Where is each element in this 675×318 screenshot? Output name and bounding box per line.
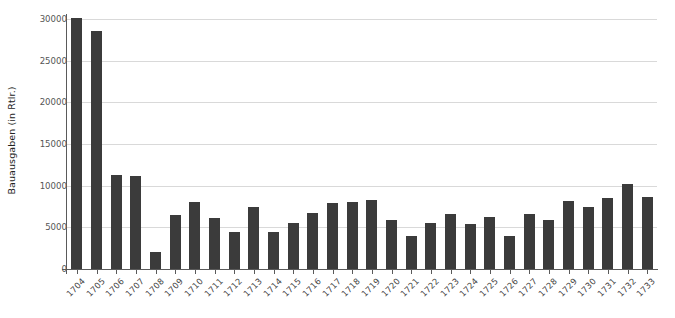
x-tick-label: 1716 — [300, 276, 323, 299]
x-tick-mark — [97, 270, 98, 274]
x-tick-mark — [431, 270, 432, 274]
bar[interactable] — [71, 18, 82, 269]
bar[interactable] — [602, 198, 613, 269]
plot-area — [67, 19, 657, 269]
bar[interactable] — [465, 224, 476, 269]
x-tick-label: 1705 — [84, 276, 107, 299]
x-tick-label: 1714 — [261, 276, 284, 299]
x-tick-mark — [392, 270, 393, 274]
x-tick-label: 1729 — [556, 276, 579, 299]
x-tick-mark — [569, 270, 570, 274]
x-tick-label: 1721 — [399, 276, 422, 299]
x-tick-label: 1709 — [163, 276, 186, 299]
bar[interactable] — [386, 220, 397, 269]
bar[interactable] — [366, 200, 377, 269]
y-axis-title-text: Bauausgaben (in Rtlr.) — [6, 86, 17, 194]
bar[interactable] — [111, 175, 122, 269]
bar[interactable] — [524, 214, 535, 269]
x-tick-label: 1712 — [222, 276, 245, 299]
x-tick-mark — [293, 270, 294, 274]
y-tick-label: 0 — [25, 264, 67, 274]
bar[interactable] — [622, 184, 633, 269]
x-tick-label: 1724 — [458, 276, 481, 299]
x-tick-label: 1730 — [576, 276, 599, 299]
bar[interactable] — [425, 223, 436, 269]
x-tick-mark — [215, 270, 216, 274]
x-tick-label: 1725 — [477, 276, 500, 299]
x-tick-mark — [77, 270, 78, 274]
bar[interactable] — [307, 213, 318, 269]
x-tick-label: 1733 — [635, 276, 658, 299]
x-tick-label: 1708 — [143, 276, 166, 299]
x-tick-mark — [588, 270, 589, 274]
bar[interactable] — [445, 214, 456, 269]
x-tick-mark — [451, 270, 452, 274]
x-tick-label: 1711 — [202, 276, 225, 299]
y-tick-label: 25000 — [25, 56, 67, 66]
bar[interactable] — [189, 202, 200, 269]
bar[interactable] — [229, 232, 240, 270]
x-tick-mark — [490, 270, 491, 274]
x-tick-mark — [647, 270, 648, 274]
x-tick-label: 1732 — [615, 276, 638, 299]
bar[interactable] — [288, 223, 299, 269]
bar[interactable] — [484, 217, 495, 269]
x-tick-label: 1704 — [64, 276, 87, 299]
bar[interactable] — [268, 232, 279, 270]
bar[interactable] — [327, 203, 338, 269]
y-tick-label: 20000 — [25, 97, 67, 107]
y-tick-label: 30000 — [25, 14, 67, 24]
x-tick-mark — [470, 270, 471, 274]
x-tick-mark — [608, 270, 609, 274]
x-tick-label: 1707 — [123, 276, 146, 299]
bar[interactable] — [642, 197, 653, 269]
x-tick-label: 1719 — [359, 276, 382, 299]
x-tick-label: 1706 — [104, 276, 127, 299]
x-tick-label: 1722 — [418, 276, 441, 299]
x-tick-mark — [116, 270, 117, 274]
y-tick-label: 5000 — [25, 222, 67, 232]
x-tick-label: 1718 — [340, 276, 363, 299]
x-tick-label: 1728 — [536, 276, 559, 299]
x-tick-mark — [510, 270, 511, 274]
bar[interactable] — [150, 252, 161, 270]
y-axis-ticks: 050001000015000200002500030000 — [19, 0, 67, 318]
x-tick-label: 1727 — [517, 276, 540, 299]
x-tick-label: 1723 — [438, 276, 461, 299]
x-tick-label: 1713 — [241, 276, 264, 299]
x-tick-mark — [529, 270, 530, 274]
bar[interactable] — [347, 202, 358, 270]
bar[interactable] — [130, 176, 141, 269]
x-tick-mark — [254, 270, 255, 274]
x-axis-ticks: 1704170517061707170817091710171117121713… — [67, 270, 657, 318]
x-tick-mark — [136, 270, 137, 274]
x-tick-mark — [234, 270, 235, 274]
x-tick-mark — [372, 270, 373, 274]
bar[interactable] — [563, 201, 574, 269]
x-tick-mark — [175, 270, 176, 274]
x-tick-mark — [313, 270, 314, 274]
gridline — [67, 61, 657, 62]
x-tick-label: 1710 — [182, 276, 205, 299]
gridline — [67, 102, 657, 103]
x-tick-mark — [274, 270, 275, 274]
bar[interactable] — [406, 236, 417, 269]
bar[interactable] — [170, 215, 181, 269]
x-tick-label: 1731 — [595, 276, 618, 299]
x-tick-label: 1726 — [497, 276, 520, 299]
x-tick-mark — [628, 270, 629, 274]
x-tick-mark — [333, 270, 334, 274]
bar[interactable] — [209, 218, 220, 269]
bar[interactable] — [504, 236, 515, 269]
bar[interactable] — [543, 220, 554, 269]
x-tick-label: 1717 — [320, 276, 343, 299]
bar-chart: Bauausgaben (in Rtlr.) 05000100001500020… — [0, 0, 675, 318]
bar[interactable] — [583, 207, 594, 270]
x-tick-label: 1720 — [379, 276, 402, 299]
x-tick-mark — [195, 270, 196, 274]
bar[interactable] — [91, 31, 102, 269]
bar[interactable] — [248, 207, 259, 269]
x-tick-mark — [156, 270, 157, 274]
x-tick-mark — [549, 270, 550, 274]
x-tick-mark — [352, 270, 353, 274]
